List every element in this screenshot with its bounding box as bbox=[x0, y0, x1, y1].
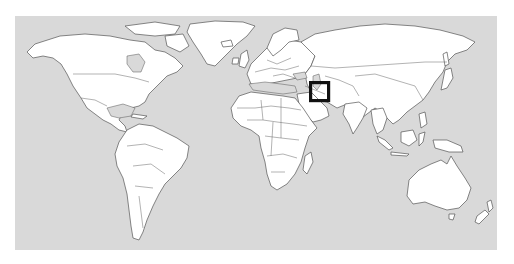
ireland bbox=[232, 58, 239, 64]
map-canvas bbox=[15, 16, 497, 250]
world-map: Iran bbox=[15, 16, 497, 250]
